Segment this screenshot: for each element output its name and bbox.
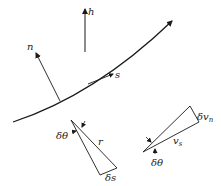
s-arrow-icon xyxy=(88,74,113,84)
h-vector: h xyxy=(85,6,94,52)
natural-coordinates-diagram: h n s δθ r δs δvn xyxy=(0,0,221,186)
tangential-velocity-label: vs xyxy=(173,135,183,148)
angle-arrow-left-icon xyxy=(72,131,76,132)
streamline xyxy=(13,21,172,122)
n-vector: n xyxy=(27,41,60,101)
streamline-curve xyxy=(13,21,172,122)
n-arrow-icon xyxy=(36,53,60,101)
h-label: h xyxy=(88,6,94,17)
angle-label-1: δθ xyxy=(56,130,68,141)
velocity-triangle: δvn vs δθ xyxy=(143,106,214,168)
arc-triangle-shape xyxy=(71,120,117,175)
angle-arrow-top-icon xyxy=(146,137,151,142)
velocity-triangle-shape xyxy=(143,106,199,152)
arc-triangle: δθ r δs xyxy=(56,120,117,183)
angle-label-2: δθ xyxy=(151,157,163,168)
arc-length-label: δs xyxy=(105,172,116,183)
radius-label: r xyxy=(98,136,104,147)
n-label: n xyxy=(27,41,33,52)
angle-arrow-right-icon xyxy=(82,121,85,127)
s-label: s xyxy=(115,69,120,80)
